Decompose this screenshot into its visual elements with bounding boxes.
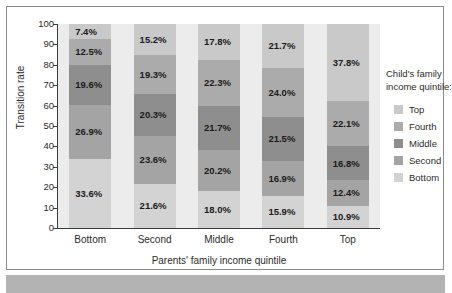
legend-item-second[interactable]: Second	[386, 152, 450, 169]
x-tick-label: Bottom	[58, 234, 122, 245]
chart-figure: 1009080706050403020100 Transition rate 7…	[0, 0, 452, 293]
bar-segment-top[interactable]: 37.8%	[327, 24, 369, 101]
x-tick-label: Middle	[187, 234, 251, 245]
y-tick-label: 70	[28, 80, 54, 90]
bar-segment-fourth[interactable]: 12.5%	[69, 39, 111, 65]
bar-segment-value: 16.8%	[327, 159, 360, 169]
bar-segment-bottom[interactable]: 18.0%	[198, 191, 240, 228]
bar-column[interactable]: 7.4%12.5%19.6%26.9%33.6%	[69, 24, 111, 228]
legend-item-top[interactable]: Top	[386, 101, 450, 118]
bar-segment-bottom[interactable]: 15.9%	[262, 196, 304, 228]
chart-legend: Child's family income quintile: TopFourt…	[386, 68, 450, 186]
bar-segment-value: 10.9%	[327, 212, 360, 222]
bar-segment-value: 19.6%	[69, 80, 102, 90]
y-axis-ticks: 1009080706050403020100	[22, 0, 54, 293]
bar-segment-fourth[interactable]: 19.3%	[134, 55, 176, 94]
legend-swatch-icon	[394, 139, 403, 148]
legend-title-line-2: income quintile:	[386, 81, 450, 94]
bar-segment-fourth[interactable]: 24.0%	[262, 68, 304, 117]
y-tick-label: 80	[28, 60, 54, 70]
y-tick-label: 90	[28, 40, 54, 50]
legend-item-label: Fourth	[409, 121, 436, 132]
bar-segment-top[interactable]: 15.2%	[134, 24, 176, 55]
bar-segment-value: 20.2%	[198, 166, 231, 176]
bar-segment-value: 17.8%	[198, 37, 231, 47]
bar-group: 7.4%12.5%19.6%26.9%33.6%15.2%19.3%20.3%2…	[58, 24, 380, 228]
legend-item-bottom[interactable]: Bottom	[386, 169, 450, 186]
y-tick-mark	[53, 24, 58, 25]
y-tick-mark	[53, 146, 58, 147]
legend-title: Child's family income quintile:	[386, 68, 450, 94]
bar-segment-value: 16.9%	[262, 174, 295, 184]
bar-column[interactable]: 15.2%19.3%20.3%23.6%21.6%	[134, 24, 176, 228]
bar-segment-value: 21.5%	[262, 134, 295, 144]
bar-stack: 21.7%24.0%21.5%16.9%15.9%	[262, 24, 304, 228]
bar-segment-top[interactable]: 17.8%	[198, 24, 240, 60]
y-tick-label: 100	[28, 19, 54, 29]
legend-swatch-icon	[394, 122, 403, 131]
y-tick-mark	[53, 106, 58, 107]
bar-segment-second[interactable]: 26.9%	[69, 105, 111, 160]
bar-column[interactable]: 17.8%22.3%21.7%20.2%18.0%	[198, 24, 240, 228]
y-tick-mark	[53, 44, 58, 45]
bar-segment-value: 12.5%	[69, 47, 102, 57]
y-tick-label: 50	[28, 121, 54, 131]
legend-item-label: Top	[409, 104, 424, 115]
bar-segment-bottom[interactable]: 10.9%	[327, 206, 369, 228]
bar-segment-middle[interactable]: 20.3%	[134, 94, 176, 135]
y-tick-label: 20	[28, 182, 54, 192]
bar-segment-value: 19.3%	[134, 70, 167, 80]
bar-segment-middle[interactable]: 21.7%	[198, 106, 240, 150]
bar-segment-second[interactable]: 12.4%	[327, 180, 369, 205]
x-tick-label: Fourth	[251, 234, 315, 245]
legend-item-label: Middle	[409, 138, 437, 149]
bar-segment-middle[interactable]: 19.6%	[69, 65, 111, 105]
bar-segment-bottom[interactable]: 21.6%	[134, 184, 176, 228]
legend-items: TopFourthMiddleSecondBottom	[386, 101, 450, 186]
legend-swatch-icon	[394, 173, 403, 182]
bar-segment-value: 26.9%	[69, 127, 102, 137]
y-tick-label: 40	[28, 142, 54, 152]
legend-item-fourth[interactable]: Fourth	[386, 118, 450, 135]
bar-segment-value: 21.7%	[198, 123, 231, 133]
y-tick-label: 60	[28, 101, 54, 111]
bar-segment-second[interactable]: 20.2%	[198, 150, 240, 191]
y-tick-mark	[53, 208, 58, 209]
bar-segment-value: 15.2%	[134, 35, 167, 45]
bar-segment-value: 12.4%	[327, 188, 360, 198]
legend-item-middle[interactable]: Middle	[386, 135, 450, 152]
y-tick-mark	[53, 228, 58, 229]
bar-segment-second[interactable]: 16.9%	[262, 161, 304, 195]
y-tick-mark	[53, 65, 58, 66]
bar-segment-fourth[interactable]: 22.3%	[198, 60, 240, 105]
bar-segment-value: 15.9%	[262, 207, 295, 217]
bar-column[interactable]: 37.8%22.1%16.8%12.4%10.9%	[327, 24, 369, 228]
bar-segment-middle[interactable]: 16.8%	[327, 146, 369, 180]
bar-stack: 15.2%19.3%20.3%23.6%21.6%	[134, 24, 176, 228]
legend-item-label: Second	[409, 155, 441, 166]
legend-title-line-1: Child's family	[386, 68, 450, 81]
bar-segment-fourth[interactable]: 22.1%	[327, 101, 369, 146]
legend-item-label: Bottom	[409, 172, 439, 183]
bar-segment-top[interactable]: 21.7%	[262, 24, 304, 68]
bar-segment-top[interactable]: 7.4%	[69, 24, 111, 39]
bar-segment-value: 22.1%	[327, 119, 360, 129]
x-axis-line	[57, 228, 380, 229]
bar-segment-value: 33.6%	[69, 189, 102, 199]
y-tick-label: 0	[28, 223, 54, 233]
bar-segment-second[interactable]: 23.6%	[134, 136, 176, 184]
bar-segment-middle[interactable]: 21.5%	[262, 117, 304, 161]
y-tick-label: 10	[28, 203, 54, 213]
legend-swatch-icon	[394, 105, 403, 114]
y-tick-mark	[53, 167, 58, 168]
bar-segment-bottom[interactable]: 33.6%	[69, 159, 111, 228]
bar-column[interactable]: 21.7%24.0%21.5%16.9%15.9%	[262, 24, 304, 228]
bar-segment-value: 21.6%	[134, 201, 167, 211]
bar-segment-value: 21.7%	[262, 41, 295, 51]
y-tick-mark	[53, 187, 58, 188]
y-tick-label: 30	[28, 162, 54, 172]
footer-strip	[6, 275, 445, 293]
bar-stack: 7.4%12.5%19.6%26.9%33.6%	[69, 24, 111, 228]
bar-segment-value: 24.0%	[262, 88, 295, 98]
y-tick-mark	[53, 85, 58, 86]
